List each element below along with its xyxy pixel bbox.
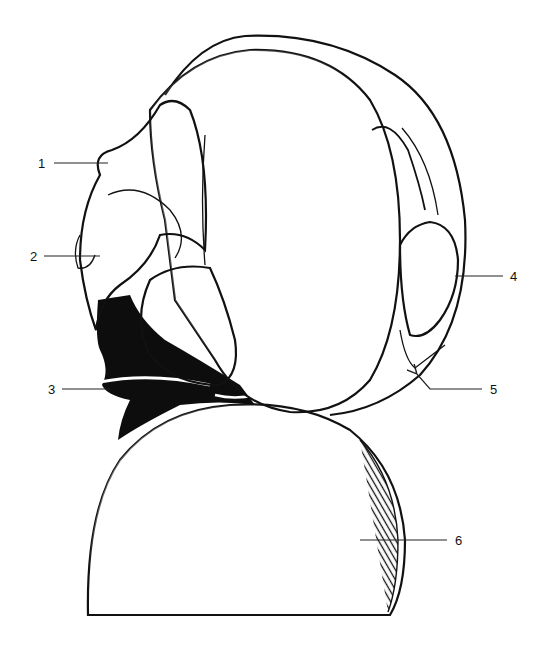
label-2: 2 <box>30 250 37 263</box>
label-5: 5 <box>490 383 497 396</box>
label-3: 3 <box>48 383 55 396</box>
embryo-illustration <box>0 0 547 649</box>
leader-line-5 <box>416 373 482 389</box>
label-6: 6 <box>455 534 462 547</box>
label-4: 4 <box>510 270 517 283</box>
lower-body <box>88 404 405 615</box>
label-1: 1 <box>38 157 45 170</box>
